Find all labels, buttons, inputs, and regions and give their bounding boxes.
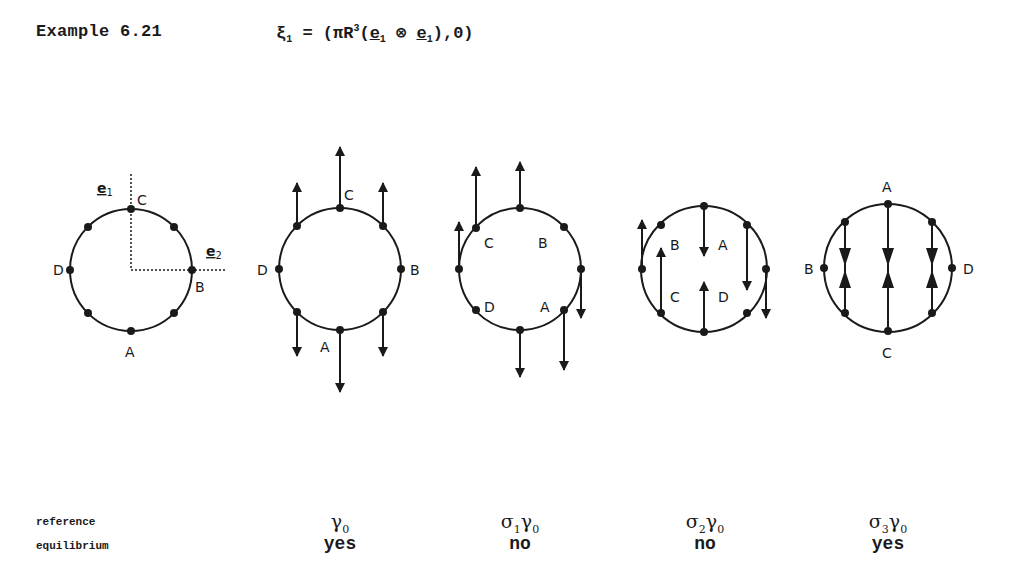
example-title: Example 6.21 <box>36 22 162 41</box>
reference-row-label: reference <box>36 516 95 528</box>
formula-tensor-product: ⊗ <box>386 24 417 43</box>
formula-close: ),0) <box>433 24 474 43</box>
sigma3-label-b: B <box>804 261 814 277</box>
formula: ξ1 = (πR3(e1 ⊗ e1),0) <box>276 22 474 45</box>
point-label-a: A <box>125 344 135 360</box>
axes-diagram: e1 e2 C B A D <box>53 174 226 360</box>
reference-value-sigma2-gamma0: σ2γ0 <box>686 510 724 536</box>
sigma2-label-c: C <box>670 289 680 305</box>
sigma1-label-b: B <box>538 235 548 251</box>
gamma0-label-b: B <box>410 262 420 278</box>
sigma1-gamma0-diagram: C B D A <box>455 162 585 377</box>
gamma0-label-d: D <box>257 262 268 278</box>
reference-value-gamma0: γ0 <box>331 510 349 536</box>
point-label-b: B <box>195 279 205 295</box>
sigma3-label-c: C <box>882 345 892 361</box>
sigma2-label-a: A <box>718 237 728 253</box>
e1-axis-label: e1 <box>97 180 113 198</box>
sigma1-label-c: C <box>484 235 494 251</box>
point-label-d: D <box>53 262 64 278</box>
formula-vector-e1: e <box>370 24 380 43</box>
reference-value-sigma1-gamma0: σ1γ0 <box>501 510 539 536</box>
sigma2-label-d: D <box>718 289 729 305</box>
sigma1-label-a: A <box>540 299 550 315</box>
equilibrium-value-sigma3-gamma0: yes <box>872 534 904 554</box>
gamma0-label-c: C <box>344 187 354 203</box>
configuration-figure: e1 e2 C B A D C B A D <box>0 120 1010 410</box>
equilibrium-value-sigma2-gamma0: no <box>694 534 716 554</box>
formula-xi: ξ <box>276 24 286 43</box>
sigma1-label-d: D <box>484 299 495 315</box>
formula-open-paren: ( <box>359 24 369 43</box>
formula-equals-pi-r: = (πR <box>292 24 353 43</box>
formula-vector-e1-second: e <box>417 24 427 43</box>
sigma2-label-b: B <box>670 237 680 253</box>
equilibrium-row-label: equilibrium <box>36 540 109 552</box>
gamma0-label-a: A <box>320 339 330 355</box>
sigma3-label-a: A <box>882 179 892 195</box>
e2-axis-label: e2 <box>206 243 222 261</box>
sigma2-gamma0-diagram: B A C D <box>638 202 770 336</box>
sigma3-gamma0-diagram: A D C B <box>804 179 974 361</box>
sigma3-label-d: D <box>963 261 974 277</box>
equilibrium-value-sigma1-gamma0: no <box>509 534 531 554</box>
gamma0-diagram: C B A D <box>257 147 420 392</box>
equilibrium-value-gamma0: yes <box>324 534 356 554</box>
point-label-c: C <box>137 192 147 208</box>
reference-value-sigma3-gamma0: σ3γ0 <box>869 510 907 536</box>
